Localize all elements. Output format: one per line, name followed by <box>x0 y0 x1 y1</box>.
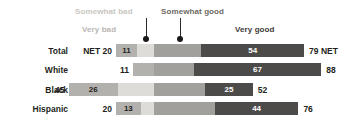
stacked-bar-chart: Somewhat bad Very bad Somewhat good Very… <box>0 0 353 125</box>
chart-row: White116788 <box>0 62 353 78</box>
chart-row: Black45262552 <box>0 82 353 98</box>
row-net-right: 79 NET <box>309 43 338 59</box>
row-bar: 1344 <box>116 102 298 115</box>
bar-segment-somewhat-bad <box>137 44 154 57</box>
bar-segment-somewhat-bad <box>141 102 154 115</box>
bar-segment-somewhat-good <box>154 63 194 76</box>
bar-segment-somewhat-bad <box>118 83 154 96</box>
row-net-left: 11 <box>120 62 129 78</box>
row-bar: 1154 <box>116 44 304 57</box>
bar-segment-very-bad: 26 <box>69 83 118 96</box>
leader-dot-somewhat-good <box>177 36 183 42</box>
chart-row: TotalNET 20115479 NET <box>0 43 353 59</box>
row-net-left: 20 <box>103 101 112 117</box>
leader-dot-somewhat-bad <box>143 36 149 42</box>
row-category-label: Total <box>0 43 68 59</box>
bar-segment-somewhat-good <box>154 44 202 57</box>
bar-segment-very-good: 54 <box>201 44 304 57</box>
bar-segment-somewhat-good <box>154 102 215 115</box>
row-net-right: 52 <box>258 82 267 98</box>
legend-label-somewhat-good: Somewhat good <box>161 7 224 16</box>
legend-label-very-good: Very good <box>235 25 275 34</box>
leader-line-somewhat-bad <box>146 18 147 38</box>
row-category-label: White <box>0 62 68 78</box>
bar-segment-somewhat-good <box>154 83 205 96</box>
row-net-right: 76 <box>303 101 312 117</box>
row-bar: 67 <box>133 63 321 76</box>
row-category-label: Hispanic <box>0 101 68 117</box>
row-net-right: 88 <box>326 62 335 78</box>
bar-segment-very-bad <box>133 63 154 76</box>
bar-segment-very-good: 44 <box>215 102 299 115</box>
bar-segment-very-good: 67 <box>194 63 321 76</box>
row-net-left: NET 20 <box>83 43 112 59</box>
bar-segment-very-bad: 11 <box>116 44 137 57</box>
legend-label-somewhat-bad: Somewhat bad <box>75 7 133 16</box>
bar-segment-very-good: 25 <box>205 83 253 96</box>
chart-row: Hispanic20134476 <box>0 101 353 117</box>
leader-line-somewhat-good <box>180 18 181 38</box>
bar-segment-very-bad: 13 <box>116 102 141 115</box>
row-net-left: 45 <box>55 82 64 98</box>
row-bar: 2625 <box>69 83 253 96</box>
legend-label-very-bad: Very bad <box>82 25 116 34</box>
